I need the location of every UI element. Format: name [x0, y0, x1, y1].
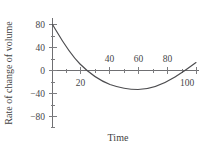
y-tick-label-40: 40	[36, 43, 46, 53]
y-axis-title: Rate of change of volume	[3, 21, 14, 125]
data-curve	[53, 25, 197, 90]
x-tick-label-20: 20	[76, 78, 86, 88]
plot-area: 80 40 0 −40 −80 20 40 60 80 100 Time Rat…	[0, 0, 202, 151]
x-tick-label-100: 100	[180, 78, 195, 88]
x-tick-label-40: 40	[105, 54, 115, 64]
y-tick-label-minus40: −40	[30, 89, 45, 99]
chart-figure: 80 40 0 −40 −80 20 40 60 80 100 Time Rat…	[0, 0, 202, 151]
y-tick-label-0: 0	[40, 66, 45, 76]
x-tick-label-60: 60	[134, 54, 144, 64]
y-tick-label-minus80: −80	[30, 112, 45, 122]
y-tick-label-80: 80	[36, 20, 46, 30]
x-axis-title: Time	[108, 132, 129, 143]
x-tick-label-80: 80	[163, 54, 173, 64]
